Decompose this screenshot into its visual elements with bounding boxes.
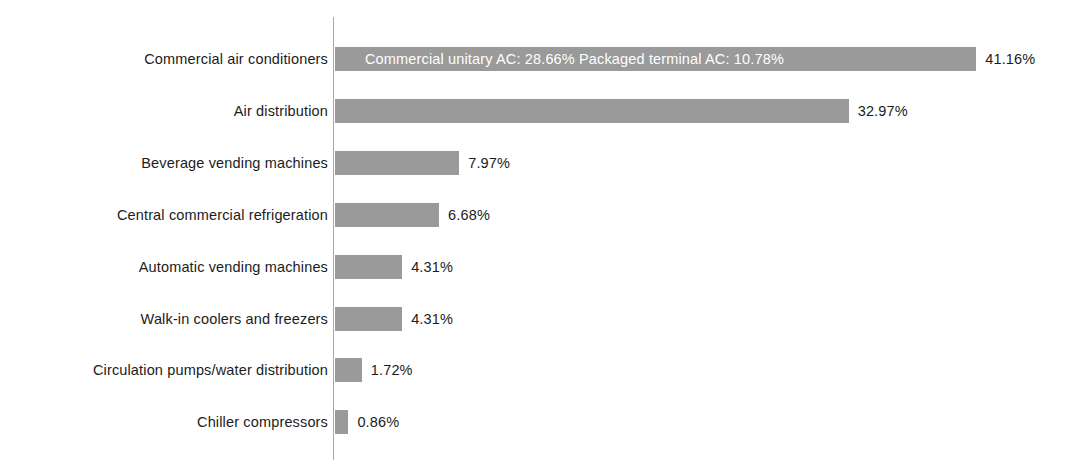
horizontal-bar-chart: Commercial air conditionersCommercial un… (0, 0, 1085, 475)
bar-row: Chiller compressors0.86% (0, 410, 1085, 434)
bar-track (335, 255, 402, 279)
category-label: Chiller compressors (197, 410, 328, 434)
bar-track (335, 99, 849, 123)
bar-value-label: 4.31% (411, 307, 453, 331)
bar-value-label: 4.31% (411, 255, 453, 279)
bar-value-label: 1.72% (371, 358, 413, 382)
bar-track (335, 203, 439, 227)
bar-value-label: 7.97% (468, 151, 510, 175)
bar-row: Air distribution32.97% (0, 99, 1085, 123)
bar-fill[interactable] (335, 255, 402, 279)
bar-value-label: 41.16% (985, 47, 1035, 71)
bar-fill[interactable] (335, 203, 439, 227)
category-label: Commercial air conditioners (144, 47, 328, 71)
bar-fill[interactable] (335, 151, 459, 175)
bar-fill[interactable] (335, 307, 402, 331)
bar-row: Beverage vending machines7.97% (0, 151, 1085, 175)
bar-row: Walk-in coolers and freezers4.31% (0, 307, 1085, 331)
bar-track (335, 358, 362, 382)
bar-value-label: 32.97% (858, 99, 908, 123)
category-label: Beverage vending machines (141, 151, 328, 175)
bar-value-label: 6.68% (448, 203, 490, 227)
bar-fill[interactable] (335, 99, 849, 123)
category-label: Air distribution (234, 99, 328, 123)
bar-rows-container: Commercial air conditionersCommercial un… (0, 0, 1085, 475)
bar-track (335, 151, 459, 175)
bar-track (335, 307, 402, 331)
bar-row: Circulation pumps/water distribution1.72… (0, 358, 1085, 382)
category-label: Circulation pumps/water distribution (93, 358, 328, 382)
bar-fill[interactable] (335, 410, 348, 434)
bar-row: Central commercial refrigeration6.68% (0, 203, 1085, 227)
bar-track (335, 410, 348, 434)
bar-fill[interactable] (335, 47, 976, 71)
bar-value-label: 0.86% (357, 410, 399, 434)
bar-track: Commercial unitary AC: 28.66% Packaged t… (335, 47, 976, 71)
bar-row: Commercial air conditionersCommercial un… (0, 47, 1085, 71)
bar-row: Automatic vending machines4.31% (0, 255, 1085, 279)
bar-fill[interactable] (335, 358, 362, 382)
category-label: Automatic vending machines (139, 255, 328, 279)
category-label: Central commercial refrigeration (117, 203, 328, 227)
category-label: Walk-in coolers and freezers (141, 307, 328, 331)
